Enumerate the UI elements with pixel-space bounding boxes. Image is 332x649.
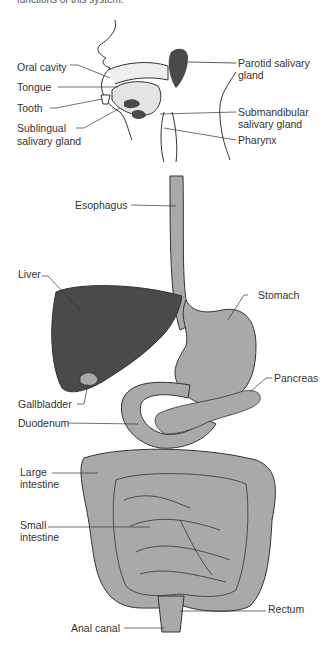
label-stomach: Stomach	[258, 289, 299, 301]
digestive-system-diagram	[0, 0, 332, 649]
label-parotid-line2: gland	[238, 69, 264, 81]
gallbladder-shape	[80, 373, 98, 386]
label-small-intestine-line1: Small	[20, 519, 46, 531]
rectum-shape	[158, 596, 184, 632]
label-pharynx: Pharynx	[238, 134, 277, 146]
label-large-intestine-line1: Large	[20, 466, 47, 478]
label-duodenum: Duodenum	[18, 417, 69, 429]
label-tooth: Tooth	[17, 102, 43, 114]
label-anal-canal: Anal canal	[71, 622, 120, 634]
small-intestine-shape	[113, 474, 248, 597]
label-rectum: Rectum	[268, 603, 304, 615]
label-oral-cavity: Oral cavity	[17, 61, 67, 73]
label-submandibular-line1: Submandibular	[238, 106, 309, 118]
label-parotid-line1: Parotid salivary	[238, 57, 310, 69]
label-liver: Liver	[18, 268, 41, 280]
liver-shape	[52, 286, 182, 392]
label-large-intestine-line2: intestine	[20, 478, 59, 490]
label-gallbladder: Gallbladder	[18, 398, 72, 410]
label-tongue: Tongue	[17, 81, 51, 93]
label-submandibular-line2: salivary gland	[238, 118, 302, 130]
label-pancreas: Pancreas	[274, 372, 318, 384]
label-small-intestine-line2: intestine	[20, 531, 59, 543]
parotid-gland-shape	[169, 49, 188, 88]
tooth-shape	[101, 95, 110, 104]
label-sublingual-line2: salivary gland	[17, 135, 81, 147]
label-esophagus: Esophagus	[75, 199, 128, 211]
label-sublingual-line1: Sublingual	[17, 122, 66, 134]
